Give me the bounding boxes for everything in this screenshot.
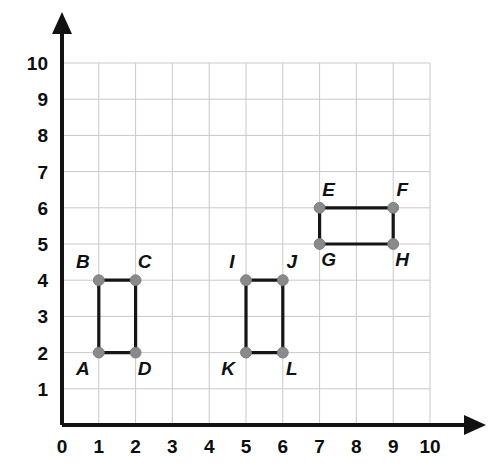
y-axis-arrow-icon — [52, 12, 72, 34]
vertex-label-h: H — [395, 249, 410, 270]
coordinate-plot: 012345678910 12345678910 ABCDEFGHIJKL — [0, 0, 500, 474]
x-axis-tick-label: 1 — [94, 436, 105, 457]
x-axis-tick-label: 3 — [167, 436, 178, 457]
y-axis-tick-label: 10 — [27, 53, 48, 74]
vertex-label-l: L — [286, 358, 298, 379]
axes — [52, 12, 486, 435]
x-axis-tick-labels: 012345678910 — [57, 436, 441, 457]
y-axis-tick-label: 9 — [37, 89, 48, 110]
vertex-marker-f — [388, 202, 399, 213]
vertex-marker-c — [130, 275, 141, 286]
x-axis-tick-label: 2 — [130, 436, 141, 457]
y-axis-tick-label: 6 — [37, 198, 48, 219]
y-axis-tick-label: 1 — [37, 379, 48, 400]
vertex-marker-l — [277, 347, 288, 358]
x-axis-tick-label: 5 — [241, 436, 252, 457]
coordinate-grid-figure: 012345678910 12345678910 ABCDEFGHIJKL — [0, 0, 500, 474]
vertex-label-b: B — [76, 251, 90, 272]
vertex-marker-g — [314, 239, 325, 250]
vertex-label-i: I — [229, 251, 235, 272]
vertex-label-g: G — [321, 249, 336, 270]
vertex-label-d: D — [138, 358, 152, 379]
y-axis-tick-label: 8 — [37, 125, 48, 146]
y-axis-tick-label: 7 — [37, 162, 48, 183]
x-axis-tick-label: 6 — [278, 436, 289, 457]
vertex-marker-i — [241, 275, 252, 286]
vertex-marker-k — [241, 347, 252, 358]
vertex-label-j: J — [287, 251, 298, 272]
x-axis-tick-label: 8 — [351, 436, 362, 457]
y-axis-tick-labels: 12345678910 — [27, 53, 49, 400]
x-axis-arrow-icon — [464, 415, 486, 435]
vertex-label-c: C — [138, 251, 152, 272]
vertex-label-e: E — [322, 179, 336, 200]
vertex-marker-a — [93, 347, 104, 358]
y-axis-tick-label: 4 — [37, 270, 48, 291]
x-axis-tick-label: 9 — [388, 436, 399, 457]
vertex-label-f: F — [396, 179, 409, 200]
vertex-marker-h — [388, 239, 399, 250]
vertex-label-k: K — [221, 358, 236, 379]
vertex-marker-j — [277, 275, 288, 286]
y-axis-tick-label: 3 — [37, 306, 48, 327]
x-axis-tick-label: 7 — [314, 436, 325, 457]
vertex-marker-e — [314, 202, 325, 213]
vertex-label-a: A — [75, 358, 90, 379]
y-axis-tick-label: 2 — [37, 343, 48, 364]
x-axis-tick-label: 10 — [419, 436, 440, 457]
vertex-marker-b — [93, 275, 104, 286]
x-axis-tick-label: 4 — [204, 436, 215, 457]
x-axis-tick-label: 0 — [57, 436, 68, 457]
y-axis-tick-label: 5 — [37, 234, 48, 255]
vertex-marker-d — [130, 347, 141, 358]
